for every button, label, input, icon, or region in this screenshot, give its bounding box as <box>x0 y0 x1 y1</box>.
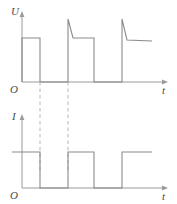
current-y-axis-arrow <box>20 114 25 120</box>
current-panel: I O t <box>10 110 168 202</box>
voltage-axis-label: U <box>11 5 20 17</box>
voltage-time-label: t <box>162 84 166 96</box>
waveform-svg: U O t I O t <box>0 0 177 204</box>
current-trace <box>12 152 152 188</box>
waveform-figure: U O t I O t <box>0 0 177 204</box>
current-origin-label: O <box>10 189 18 201</box>
voltage-origin-label: O <box>10 83 18 95</box>
current-axis-label: I <box>11 110 17 122</box>
current-time-label: t <box>162 190 166 202</box>
reference-lines-group <box>40 82 68 172</box>
voltage-panel: U O t <box>10 5 168 96</box>
voltage-trace <box>22 19 152 82</box>
voltage-y-axis-arrow <box>20 11 25 17</box>
